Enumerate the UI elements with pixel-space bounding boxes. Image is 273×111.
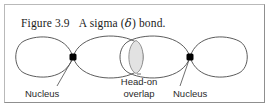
right-outer-lobe	[190, 37, 247, 77]
label-head-on-overlap-line1: Head-on	[113, 76, 165, 88]
label-nucleus-right: Nucleus	[173, 88, 207, 100]
label-head-on-overlap: Head-on overlap	[113, 76, 165, 99]
right-nucleus-dot	[187, 54, 194, 61]
left-nucleus-leader-line	[57, 60, 72, 86]
right-nucleus-leader-line	[180, 60, 189, 86]
label-nucleus-left: Nucleus	[25, 88, 59, 100]
left-orbital	[16, 36, 143, 78]
label-head-on-overlap-line2: overlap	[113, 88, 165, 100]
left-outer-lobe	[16, 37, 73, 77]
head-on-overlap-region	[129, 41, 143, 74]
figure-page: Figure 3.9A sigma (δ) bond. Nucleus Head…	[0, 0, 273, 111]
left-nucleus-dot	[70, 54, 77, 61]
